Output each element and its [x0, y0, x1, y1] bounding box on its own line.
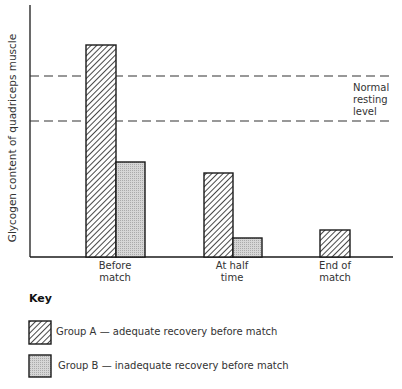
legend-label-group-b: Group B — inadequate recovery before mat…: [58, 360, 289, 371]
y-axis-label: Glycogen content of quadriceps muscle: [6, 28, 18, 248]
bar-halftime-group-b: [233, 238, 262, 257]
normal-resting-level-annotation: Normal resting level: [353, 82, 389, 118]
x-category-line1: Before: [80, 260, 150, 272]
x-category-end-of-match: End of match: [300, 260, 370, 284]
annotation-line1: Normal: [353, 82, 389, 94]
bar-end-group-a: [320, 230, 350, 257]
annotation-line2: resting: [353, 94, 389, 106]
legend-label-group-a: Group A — adequate recovery before match: [56, 326, 277, 337]
x-category-before-match: Before match: [80, 260, 150, 284]
x-category-line1: End of: [300, 260, 370, 272]
x-category-line2: time: [197, 272, 267, 284]
legend-swatch-group-a: [29, 321, 51, 344]
annotation-line3: level: [353, 106, 389, 118]
x-category-half-time: At half time: [197, 260, 267, 284]
legend-swatch-group-b: [29, 355, 51, 377]
x-category-line2: match: [80, 272, 150, 284]
legend-title: Key: [29, 292, 52, 305]
bar-before-group-b: [116, 162, 145, 257]
x-category-line2: match: [300, 272, 370, 284]
bar-before-group-a: [86, 45, 116, 257]
bar-halftime-group-a: [204, 173, 233, 257]
x-category-line1: At half: [197, 260, 267, 272]
